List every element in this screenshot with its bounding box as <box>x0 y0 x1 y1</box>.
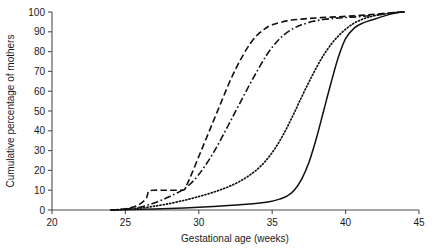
x-tick-label: 25 <box>120 217 132 228</box>
x-axis-tick-labels: 202530354045 <box>46 217 425 228</box>
y-tick-label: 10 <box>34 185 46 196</box>
x-tick-label: 40 <box>340 217 352 228</box>
y-axis-title: Cumulative percentage of mothers <box>5 35 16 188</box>
y-tick-label: 100 <box>28 7 45 18</box>
y-tick-label: 0 <box>39 205 45 216</box>
x-tick-label: 35 <box>267 217 279 228</box>
y-tick-label: 80 <box>34 46 46 57</box>
cumulative-gestational-age-chart: 0102030405060708090100 202530354045 Gest… <box>0 0 433 250</box>
y-tick-label: 60 <box>34 86 46 97</box>
x-axis-title: Gestational age (weeks) <box>181 233 289 244</box>
chart-figure: 0102030405060708090100 202530354045 Gest… <box>0 0 433 250</box>
x-tick-label: 45 <box>413 217 425 228</box>
y-tick-label: 70 <box>34 66 46 77</box>
x-axis-ticks <box>52 210 419 214</box>
series-group <box>111 12 405 210</box>
y-axis-ticks <box>48 12 52 210</box>
y-tick-label: 50 <box>34 106 46 117</box>
curve-4-solid <box>111 12 405 210</box>
y-tick-label: 40 <box>34 125 46 136</box>
curve-3-dotted <box>111 12 405 210</box>
curve-1-long-dash <box>111 12 405 210</box>
y-axis-tick-labels: 0102030405060708090100 <box>28 7 45 216</box>
y-tick-label: 30 <box>34 145 46 156</box>
y-tick-label: 20 <box>34 165 46 176</box>
curve-2-dash-dot <box>111 12 405 210</box>
x-tick-label: 20 <box>46 217 58 228</box>
x-tick-label: 30 <box>193 217 205 228</box>
y-tick-label: 90 <box>34 26 46 37</box>
